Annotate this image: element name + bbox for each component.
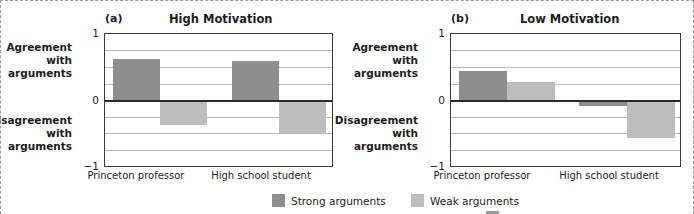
panel-title-a: High Motivation	[169, 12, 273, 26]
gridline	[105, 50, 332, 51]
panel-title-b: Low Motivation	[520, 12, 619, 26]
gridline	[105, 150, 332, 151]
disagreement-line-2: with	[332, 127, 418, 140]
gridline	[451, 150, 680, 151]
plot-area-a	[104, 33, 333, 167]
agreement-line-2: with	[332, 54, 418, 67]
agreement-line-3: arguments	[0, 67, 72, 80]
y-tick-zero-b: 0	[423, 94, 445, 106]
figure-container: (a) High Motivation 1 0 −1 Agreement wit…	[0, 0, 694, 214]
panel-high-motivation: (a) High Motivation 1 0 −1 Agreement wit…	[1, 1, 348, 191]
legend-swatch-strong-icon	[272, 194, 285, 207]
y-axis-label-disagreement-a: Disagreement with arguments	[0, 114, 72, 152]
x-label-princeton-b: Princeton professor	[432, 170, 532, 181]
bar-weak-student-a	[279, 101, 326, 134]
agreement-line-1: Agreement	[0, 41, 72, 54]
bar-strong-student-b	[579, 101, 627, 106]
agreement-line-3: arguments	[332, 67, 418, 80]
bar-strong-princeton-a	[113, 59, 160, 101]
agreement-line-2: with	[0, 54, 72, 67]
gridline	[451, 50, 680, 51]
bar-weak-princeton-a	[160, 101, 207, 125]
bar-weak-student-b	[627, 101, 675, 138]
disagreement-line-1: Disagreement	[0, 114, 72, 127]
disagreement-line-3: arguments	[0, 140, 72, 153]
y-axis-label-disagreement-b: Disagreement with arguments	[332, 114, 418, 152]
plot-area-b	[450, 33, 681, 167]
y-axis-label-agreement-b: Agreement with arguments	[332, 41, 418, 79]
x-label-princeton-a: Princeton professor	[86, 170, 186, 181]
legend-label-weak: Weak arguments	[430, 195, 519, 207]
zero-axis-line-a	[105, 100, 332, 102]
y-tick-top-b: 1	[423, 27, 445, 39]
y-tick-zero-a: 0	[77, 94, 99, 106]
bar-weak-princeton-b	[507, 82, 555, 100]
bar-strong-student-a	[232, 61, 279, 101]
disagreement-line-3: arguments	[332, 140, 418, 153]
y-axis-label-agreement-a: Agreement with arguments	[0, 41, 72, 79]
legend-item-third-truncated	[486, 211, 505, 214]
agreement-line-1: Agreement	[332, 41, 418, 54]
x-label-student-a: High school student	[206, 170, 316, 181]
legend-item-strong-arguments: Strong arguments	[272, 194, 386, 207]
panel-tag-b: (b)	[451, 12, 469, 25]
panel-low-motivation: (b) Low Motivation 1 0 −1 Agreement with…	[348, 1, 694, 191]
legend-label-strong: Strong arguments	[291, 195, 386, 207]
disagreement-line-2: with	[0, 127, 72, 140]
legend-swatch-third-icon	[486, 211, 499, 214]
legend-swatch-weak-icon	[411, 194, 424, 207]
zero-axis-line-b	[451, 100, 680, 102]
y-tick-top-a: 1	[77, 27, 99, 39]
gridline	[451, 67, 680, 68]
x-label-student-b: High school student	[553, 170, 665, 181]
panel-tag-a: (a)	[105, 12, 122, 25]
chart-legend: Strong arguments Weak arguments	[1, 191, 694, 214]
disagreement-line-1: Disagreement	[332, 114, 418, 127]
legend-item-weak-arguments: Weak arguments	[411, 194, 519, 207]
bar-strong-princeton-b	[459, 71, 507, 100]
